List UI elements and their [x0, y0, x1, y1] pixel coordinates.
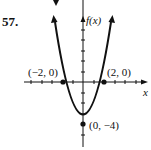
x-axis — [24, 80, 148, 85]
point-right — [101, 79, 106, 84]
curve-arrow-right-icon — [109, 15, 116, 23]
x-axis-label: x — [142, 86, 148, 98]
point-left-label: (−2, 0) — [28, 66, 58, 79]
point-vertex — [80, 121, 85, 126]
parabola-graph: x f(x) (−2, 0) (2, 0) (0, −4) — [0, 0, 151, 150]
curve-arrow-left-icon — [51, 15, 58, 23]
point-vertex-label: (0, −4) — [89, 119, 119, 132]
y-axis-label: f(x) — [86, 14, 102, 27]
point-left — [60, 79, 65, 84]
point-right-label: (2, 0) — [107, 66, 131, 79]
arrow-icon — [53, 0, 59, 6]
